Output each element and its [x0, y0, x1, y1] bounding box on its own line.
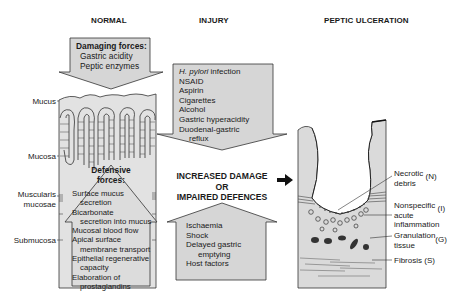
header-peptic-ulceration: PEPTIC ULCERATION: [324, 16, 409, 25]
necrotic-code: (N): [426, 172, 437, 181]
gran-line1: Granulation: [394, 231, 435, 240]
defensive-item: Bicarbonate: [72, 208, 152, 217]
injury-item-hpylori: H. pylori infection: [179, 67, 249, 77]
muscularis-line2: mucosae: [18, 200, 56, 210]
layer-label-submucosa: Submucosa: [14, 236, 56, 246]
damaging-item: Gastric acidity: [76, 51, 147, 61]
defensive-item: capacity: [72, 263, 152, 272]
defensive-title-line1: Defensive: [80, 165, 142, 175]
necrotic-line1: Necrotic: [394, 169, 423, 178]
label-granulation-tissue: Granulation(G) tissue: [394, 231, 447, 250]
muscularis-line1: Muscularis: [18, 190, 56, 200]
defensive-item: membrane transport: [72, 245, 152, 254]
hpylori-rest: infection: [208, 67, 240, 76]
defensive-item: Surface mucus: [72, 189, 152, 198]
label-necrotic-debris: Necrotic (N) debris: [394, 169, 437, 188]
injury-item: Cigarettes: [179, 96, 249, 106]
defensive-forces-title: Defensive forces:: [80, 165, 142, 185]
header-injury: INJURY: [199, 16, 229, 25]
center-line2: OR: [160, 182, 284, 193]
host-item: Host factors: [186, 259, 241, 269]
defensive-item: prostaglandins: [72, 282, 152, 291]
defensive-item: Mucosal blood flow: [72, 226, 152, 235]
defensive-item: Apical surface: [72, 235, 152, 244]
inflam-line3: inflammation: [394, 220, 445, 230]
center-statement: INCREASED DAMAGE OR IMPAIRED DEFENCES: [160, 171, 284, 203]
ulcer-tissue: [298, 110, 392, 288]
hpylori-italic: H. pylori: [179, 67, 208, 76]
defensive-title-line2: forces:: [80, 175, 142, 185]
layer-label-mucus: Mucus: [32, 97, 56, 107]
layer-label-mucosa: Mucosa: [28, 152, 56, 162]
damaging-forces-box: Damaging forces: Gastric acidity Peptic …: [76, 41, 147, 71]
defensive-item: Epithelial regenerative: [72, 254, 152, 263]
host-item: emptying: [186, 250, 241, 260]
damaging-item: Peptic enzymes: [76, 61, 147, 71]
injury-factors-list: H. pylori infection NSAID Aspirin Cigare…: [179, 67, 249, 144]
injury-item: Aspirin: [179, 86, 249, 96]
host-item: Shock: [186, 231, 241, 241]
injury-item: Gastric hyperacidity: [179, 115, 249, 125]
injury-item: reflux: [179, 134, 249, 144]
inflam-line1: Nonspecific: [394, 201, 435, 210]
label-acute-inflammation: Nonspecific (I) acute inflammation: [394, 201, 445, 230]
injury-item: Duodenal-gastric: [179, 125, 249, 135]
injury-item: NSAID: [179, 77, 249, 87]
defensive-item: secretion: [72, 198, 152, 207]
host-item: Ischaemia: [186, 221, 241, 231]
defensive-item: secretion into mucus: [72, 217, 152, 226]
label-fibrosis: Fibrosis (S): [394, 256, 435, 266]
header-normal: NORMAL: [91, 16, 127, 25]
defensive-forces-list: Surface mucus secretion Bicarbonate secr…: [72, 189, 152, 291]
gran-code: (G): [435, 235, 447, 244]
injury-item: Alcohol: [179, 105, 249, 115]
damaging-forces-title: Damaging forces:: [76, 41, 147, 51]
host-item: Delayed gastric: [186, 240, 241, 250]
defensive-item: Elaboration of: [72, 273, 152, 282]
inflam-code: (I): [438, 204, 446, 213]
host-factors-list: Ischaemia Shock Delayed gastric emptying…: [186, 221, 241, 269]
layer-label-muscularis-mucosae: Muscularis mucosae: [18, 190, 56, 209]
center-line3: IMPAIRED DEFENCES: [160, 192, 284, 203]
center-line1: INCREASED DAMAGE: [160, 171, 284, 182]
